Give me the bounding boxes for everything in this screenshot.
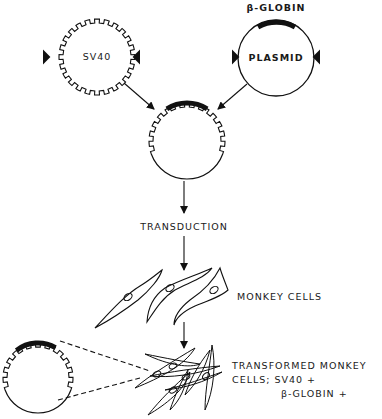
plasmid-left-marker-icon (233, 52, 238, 62)
monkey-cells-illustration (95, 268, 228, 328)
sv40-label: SV40 (83, 52, 112, 62)
vector-globin-insert (167, 103, 207, 109)
inset-dashed-line-bottom (58, 378, 140, 400)
transformed-cells-illustration (135, 345, 222, 415)
vector-sv40-segment (149, 103, 225, 154)
arrow-sv40-to-vector (124, 83, 154, 109)
vector-sv40-segment (3, 343, 73, 390)
transformed-label-line3: β-GLOBIN + (281, 389, 348, 399)
vector-plasmid-backbone (151, 154, 222, 179)
inset-vector-circle (3, 343, 73, 413)
plasmid-label: PLASMID (248, 53, 303, 63)
vector-plasmid-backbone (5, 390, 71, 413)
transformed-label-line1: TRANSFORMED MONKEY (232, 361, 367, 371)
plasmid-globin-insert (258, 22, 295, 27)
inset-dashed-line-top (60, 341, 150, 371)
plasmid-right-marker-icon (314, 52, 319, 62)
transformed-label-line2: CELLS; SV40 + (232, 375, 316, 385)
sv40-right-marker-icon (134, 52, 139, 62)
sv40-left-marker-icon (44, 52, 49, 62)
recombinant-vector-circle (149, 103, 225, 179)
transduction-label: TRANSDUCTION (140, 222, 228, 232)
monkey-cells-label: MONKEY CELLS (237, 292, 322, 302)
beta-globin-insert-label: β-GLOBIN (246, 3, 305, 13)
diagram-canvas (0, 0, 382, 419)
arrow-plasmid-to-vector (218, 84, 247, 109)
